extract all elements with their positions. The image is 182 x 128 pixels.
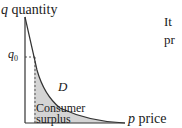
y-axis-label: q quantity <box>1 3 57 17</box>
x-variable: p <box>128 111 135 126</box>
y-axis-text: quantity <box>12 2 58 17</box>
x-axis-label: p price <box>128 112 166 126</box>
y-variable: q <box>1 2 8 17</box>
x-axis-text: price <box>139 111 167 126</box>
side-text-1: It <box>164 15 172 28</box>
cs-line2: surplus <box>36 114 85 125</box>
q0-label: q0 <box>8 48 18 63</box>
q0-subscript: 0 <box>14 54 18 63</box>
consumer-surplus-label: Consumersurplus <box>36 103 85 125</box>
demand-label: D <box>58 80 67 93</box>
side-text-2: pr <box>164 33 175 46</box>
demand-diagram <box>0 0 182 128</box>
